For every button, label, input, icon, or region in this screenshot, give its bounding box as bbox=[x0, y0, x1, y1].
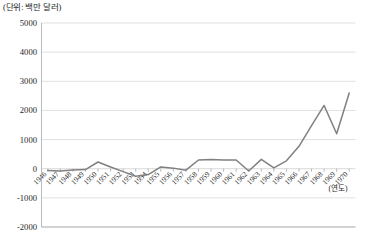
data-series-group bbox=[48, 93, 349, 176]
y-axis-tick-label: -1000 bbox=[17, 193, 37, 203]
y-axis-tick-label: 2000 bbox=[20, 105, 37, 115]
y-axis-tick-label: 5000 bbox=[20, 18, 37, 28]
y-axis-labels-group: 500040003000200010000-1000-2000 bbox=[17, 18, 37, 232]
y-axis-tick-label: 3000 bbox=[20, 76, 37, 86]
y-axis-tick-label: 1000 bbox=[20, 135, 37, 145]
plot-area: 500040003000200010000-1000-2000 19461947… bbox=[0, 0, 377, 240]
chart-container: (단위: 백만 달러) 500040003000200010000-1000-2… bbox=[0, 0, 377, 240]
line-chart-svg: 500040003000200010000-1000-2000 19461947… bbox=[0, 0, 377, 240]
axis-lines-group bbox=[42, 23, 356, 227]
x-axis-labels-group: 1946194719481949195019511952195319541955… bbox=[31, 170, 349, 187]
x-axis-unit-note: (연도) bbox=[329, 184, 349, 193]
gridlines-group bbox=[42, 23, 356, 227]
x-axis-unit-note-group: (연도) bbox=[329, 184, 349, 193]
y-axis-tick-label: 0 bbox=[33, 164, 37, 174]
trade-balance-line bbox=[48, 93, 349, 176]
y-axis-tick-label: 4000 bbox=[20, 47, 37, 57]
y-axis-tick-label: -2000 bbox=[17, 222, 37, 232]
